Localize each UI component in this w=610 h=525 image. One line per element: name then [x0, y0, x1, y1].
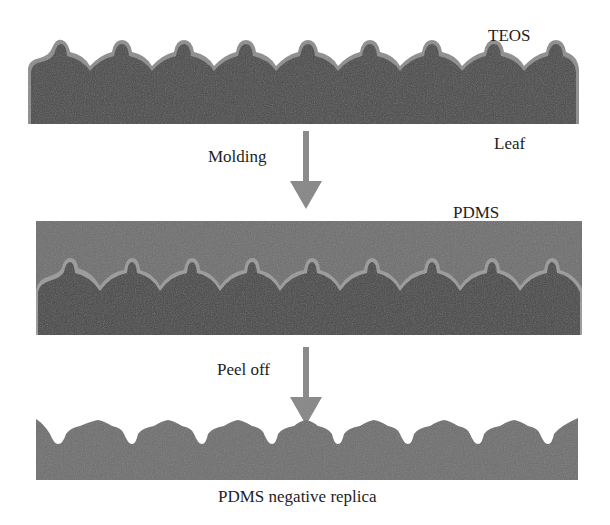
teos-label: TEOS — [488, 27, 531, 44]
replica-body — [36, 418, 578, 480]
peel-off-arrow — [290, 347, 322, 425]
pdms-cast-block — [36, 221, 582, 335]
peel-off-label: Peel off — [217, 361, 270, 378]
leaf-label: Leaf — [494, 135, 525, 152]
pdms-label: PDMS — [453, 204, 499, 221]
pdms-negative-replica — [36, 418, 578, 480]
leaf-with-teos — [28, 40, 579, 124]
process-diagram — [0, 0, 610, 525]
molding-arrow — [290, 131, 322, 209]
replica-caption: PDMS negative replica — [218, 488, 377, 505]
molding-label: Molding — [208, 148, 267, 165]
